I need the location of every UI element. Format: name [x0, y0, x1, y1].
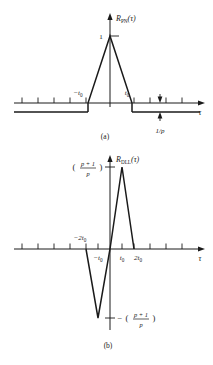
panel-b-trough-denominator: p: [138, 321, 142, 328]
panel-a-caption: (a): [101, 132, 110, 141]
panel-b-neg-2t0-sub: 0: [84, 237, 87, 243]
panel-b-pos-t0-sub: 0: [122, 257, 125, 263]
panel-b-fn-subscript: DLL: [121, 159, 131, 165]
panel-a: 1 −t0 t0 RPN(τ) τ: [14, 13, 205, 141]
panel-b-tick-label-neg-t0: −t0: [93, 254, 103, 263]
panel-a-tick-label-neg-t0: −t0: [73, 89, 83, 98]
panel-b-tick-label-neg-2t0: −2t0: [74, 234, 87, 243]
panel-a-neg-t0-sub: 0: [80, 92, 83, 98]
panel-b-caption: (b): [104, 341, 113, 350]
panel-b-peak-denominator: p: [85, 170, 89, 177]
panel-b-tick-label-pos-t0: t0: [120, 254, 125, 263]
svg-text:−2t0: −2t0: [74, 234, 87, 243]
panel-a-x-ticks: [22, 98, 182, 104]
panel-b-pos-2t0-sub: 0: [139, 257, 142, 263]
panel-b-trough-minus: −: [118, 313, 123, 323]
panel-b-fn-argument: (τ): [131, 155, 140, 164]
panel-a-peak-value-label: 1: [99, 33, 103, 41]
panel-b-peak-open-paren: (: [73, 162, 76, 172]
svg-text:RDLL(τ): RDLL(τ): [115, 155, 140, 165]
figure-svg: 1 −t0 t0 RPN(τ) τ: [0, 0, 213, 365]
panel-a-offset-indicator: [158, 94, 163, 121]
panel-a-x-axis-label: τ: [199, 108, 203, 117]
panel-a-pos-t0-sub: 0: [127, 92, 130, 98]
svg-text:t0: t0: [120, 254, 125, 263]
svg-text:−t0: −t0: [93, 254, 103, 263]
figure-container: 1 −t0 t0 RPN(τ) τ: [0, 0, 213, 365]
panel-b-trough-open-paren: (: [126, 313, 129, 323]
panel-a-fn-argument: (τ): [128, 14, 137, 23]
panel-b-trough-close-paren: ): [153, 313, 156, 323]
panel-b-tick-label-pos-2t0: 2t0: [134, 254, 142, 263]
panel-a-offset-label: 1/p: [156, 127, 165, 135]
svg-text:2t0: 2t0: [134, 254, 142, 263]
panel-b-peak-numerator: p + 1: [80, 160, 95, 167]
panel-b-x-ticks: [22, 244, 182, 250]
panel-b-x-axis-label: τ: [199, 254, 203, 263]
panel-b-neg-t0-sub: 0: [100, 257, 103, 263]
panel-b-peak-label: ( p + 1 p ): [73, 160, 103, 177]
panel-b-trough-label: − ( p + 1 p ): [118, 311, 156, 328]
svg-text:RPN(τ): RPN(τ): [115, 14, 136, 24]
svg-text:−t0: −t0: [73, 89, 83, 98]
panel-a-y-axis: [107, 13, 112, 107]
panel-b-peak-close-paren: ): [100, 162, 103, 172]
panel-b-trough-numerator: p + 1: [133, 311, 148, 318]
panel-b: RDLL(τ) ( p + 1 p ) − ( p + 1 p ) −2t0: [14, 155, 205, 350]
panel-a-function-label: RPN(τ): [115, 14, 136, 24]
panel-b-y-axis: [107, 155, 112, 330]
panel-b-function-label: RDLL(τ): [115, 155, 140, 165]
